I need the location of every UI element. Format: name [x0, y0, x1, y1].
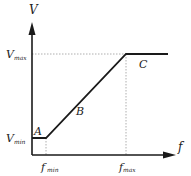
vf-curve [32, 54, 168, 138]
y-axis-arrow-icon [29, 22, 36, 35]
fmin-label: fmin [40, 161, 59, 174]
vmin-label: Vmin [6, 132, 26, 145]
x-axis-arrow-icon [163, 152, 176, 159]
region-c-label: C [139, 58, 148, 71]
x-axis-label: f [177, 140, 185, 154]
fmax-label: fmax [118, 161, 136, 174]
vmax-label: Vmax [6, 48, 27, 61]
y-axis-label: V [29, 3, 39, 17]
region-b-label: B [75, 105, 84, 118]
region-a-label: A [33, 125, 42, 138]
vf-diagram: V f Vmax Vmin fmin fmax A B C [0, 0, 191, 176]
